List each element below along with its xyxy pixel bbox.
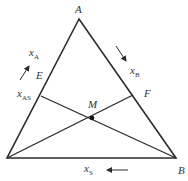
label-xA: xA: [28, 46, 39, 61]
line-E-to-B: [41, 96, 176, 158]
label-A: A: [74, 3, 82, 15]
label-xS: xS: [83, 162, 93, 177]
label-B: B: [178, 164, 185, 176]
label-xB: xB: [129, 64, 140, 79]
label-xAS: xAS: [16, 87, 31, 102]
label-F: F: [143, 87, 151, 99]
arrow-xB-icon: [116, 46, 126, 61]
label-E: E: [35, 69, 43, 81]
line-S-to-F: [7, 95, 133, 158]
point-M: [90, 116, 95, 121]
ternary-diagram: A B E F M xA xB xAS xS: [0, 0, 188, 181]
label-M: M: [87, 98, 98, 110]
arrow-xA-icon: [20, 66, 29, 80]
